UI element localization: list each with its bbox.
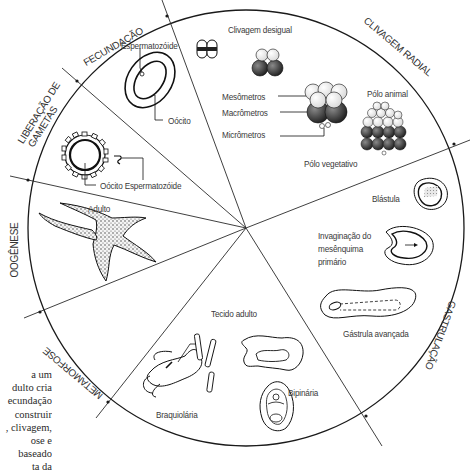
label-oocito-espermatozoide: Oócito Espermatozóide [100,181,181,191]
side-text-line: ecundação [0,394,52,407]
stage-label-oogenese: OOGÊNESE [10,223,20,278]
advanced-gastrula-illustration [321,288,416,318]
side-text-line: dulto cria [0,381,52,394]
side-text-line: ta da [0,460,52,473]
side-text-line: , clivagem, [0,421,52,434]
two-cell-embryo-illustration [197,40,217,58]
label-gastrula-avancada: Gástrula avançada [343,329,409,339]
oocyte-sperm-illustration [62,132,143,185]
label-micrometros: Micrômetros [222,130,265,140]
invagination-illustration [385,226,433,264]
larva-transition-illustration [242,336,303,370]
label-oocito-top: Oócito [168,116,191,126]
side-text-line: a um [0,368,52,381]
label-espermatozoide-top: Espermatozóide [121,41,178,51]
eight-cell-embryo-illustration [252,49,283,76]
label-mesometros: Mesômetros [222,92,265,102]
fertilized-egg-illustration [115,43,185,120]
cropped-side-text: a um dulto cria ecundação construir , cl… [0,368,52,474]
label-polo-vegetativo: Pólo vegetativo [304,159,357,169]
label-invaginacao-line1: Invaginação do [318,231,371,241]
label-polo-animal: Pólo animal [367,89,408,99]
side-text-line: baseado [0,447,52,460]
label-invaginacao-line2: mesênquima [318,244,363,254]
adult-starfish-illustration [39,203,156,281]
side-text-line: construir [0,408,52,421]
label-tecido-adulto: Tecido adulto [211,309,257,319]
label-bipinaria: Bipinária [288,388,318,398]
label-adulto: Adulto [88,204,110,214]
label-macrometros: Macrômetros [222,108,268,118]
label-clivagem-desigual: Clivagem desigual [228,25,292,35]
side-text-line: ose e [0,434,52,447]
blastula-illustration [414,178,447,209]
sixteen-cell-embryo-illustration [278,82,347,136]
morula-illustration [361,102,406,155]
brachiolaria-illustration [143,334,216,397]
label-invaginacao-line3: primário [318,257,346,267]
label-braquiolaria: Braquiolária [156,410,198,420]
label-blastula: Blástula [372,194,400,204]
